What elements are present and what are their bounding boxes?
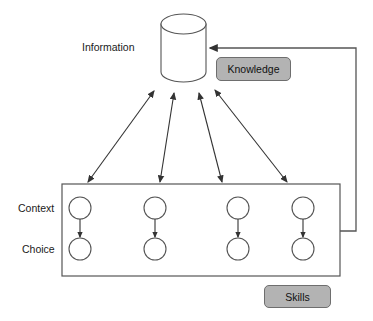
context-circle-1 [69, 197, 91, 219]
choice-circle-4 [292, 238, 314, 260]
skills-box: Skills [264, 285, 331, 308]
context-circle-2 [144, 197, 166, 219]
information-cylinder [161, 14, 206, 82]
choice-circle-2 [144, 238, 166, 260]
label-information: Information [82, 42, 135, 53]
diagram-svg [0, 0, 373, 321]
choice-circle-3 [227, 238, 249, 260]
context-circle-4 [292, 197, 314, 219]
knowledge-box: Knowledge [216, 57, 291, 81]
choice-circle-1 [69, 238, 91, 260]
arrow-panel-to-information-1 [88, 91, 154, 182]
arrow-panel-to-information-2 [160, 93, 174, 182]
arrow-panel-to-information-4 [215, 90, 287, 182]
label-context: Context [18, 203, 54, 214]
diagram-canvas: Information Context Choice Knowledge Ski… [0, 0, 373, 321]
label-choice: Choice [22, 244, 55, 255]
context-circle-3 [227, 197, 249, 219]
arrow-panel-to-information-3 [199, 93, 222, 182]
